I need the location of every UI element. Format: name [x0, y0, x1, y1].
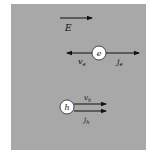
electron-symbol: e	[97, 49, 102, 58]
hole-symbol: h	[64, 103, 69, 112]
hole-velocity-label: vh	[84, 94, 91, 103]
electron-current-label: je	[115, 57, 123, 67]
field-label: E	[64, 23, 72, 33]
carrier-diagram: E e ve je h vh jh	[0, 0, 154, 161]
hole-current-label: jh	[82, 116, 89, 125]
electron-velocity-label: ve	[78, 57, 87, 67]
